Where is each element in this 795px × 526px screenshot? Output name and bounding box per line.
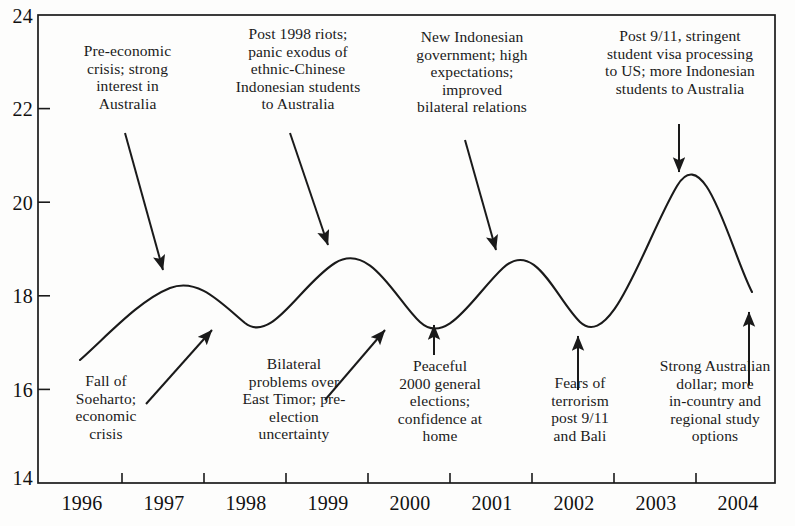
x-tick-label-2003: 2003 [615, 492, 697, 515]
chart-figure: 24 22 20 18 16 14 1996 1997 1998 1999 20… [0, 0, 795, 526]
annotation-bilateral-problems: Bilateral problems over East Timor; pre-… [228, 355, 360, 443]
arrow-post-1998-riots [290, 133, 328, 245]
y-tick-label-14: 14 [0, 467, 33, 490]
annotation-peaceful-elections: Peaceful 2000 general elections; confide… [385, 357, 495, 445]
arrow-new-indonesian-government [465, 140, 496, 250]
y-tick-label-24: 24 [0, 5, 33, 28]
annotation-pre-economic-crisis: Pre-economic crisis; strong interest in … [55, 42, 200, 112]
x-tick-label-2001: 2001 [451, 492, 533, 515]
annotation-post-1998-riots: Post 1998 riots; panic exodus of ethnic-… [214, 25, 382, 113]
y-tick-label-16: 16 [0, 379, 33, 402]
arrow-pre-economic-crisis [125, 133, 163, 270]
y-tick-label-20: 20 [0, 192, 33, 215]
x-tick-label-1998: 1998 [205, 492, 287, 515]
data-curve [80, 175, 752, 360]
annotation-fall-of-soeharto: Fall of Soeharto; economic crisis [51, 372, 161, 442]
x-tick-label-1999: 1999 [287, 492, 369, 515]
x-tick-label-2004: 2004 [697, 492, 779, 515]
x-tick-label-1996: 1996 [41, 492, 123, 515]
y-tick-label-18: 18 [0, 285, 33, 308]
annotation-new-indonesian-government: New Indonesian government; high expectat… [392, 28, 552, 116]
x-axis-ticks [122, 473, 696, 483]
x-tick-label-2002: 2002 [533, 492, 615, 515]
annotation-fears-of-terrorism: Fears of terrorism post 9/11 and Bali [535, 374, 625, 444]
annotation-post-911-visa: Post 9/11, stringent student visa proces… [585, 27, 775, 97]
x-tick-label-1997: 1997 [123, 492, 205, 515]
y-tick-label-22: 22 [0, 98, 33, 121]
x-tick-label-2000: 2000 [369, 492, 451, 515]
annotation-strong-aud: Strong Australian dollar; more in-countr… [645, 357, 785, 445]
y-axis-ticks [38, 109, 50, 390]
